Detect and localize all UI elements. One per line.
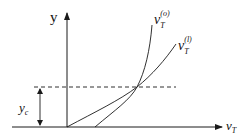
x-axis-label: vT — [226, 119, 236, 132]
curve-label-vt-l: v (l) T — [178, 39, 196, 53]
curve-label-vt-o: v (o) T — [154, 13, 172, 27]
curve-vt-o — [95, 25, 152, 127]
yc-label: yc — [19, 101, 28, 114]
y-axis-label: y — [50, 10, 58, 25]
diagram: y vT yc v (o) T v (l) T — [0, 0, 248, 138]
curve-vt-l — [67, 44, 176, 127]
diagram-canvas — [0, 0, 248, 138]
